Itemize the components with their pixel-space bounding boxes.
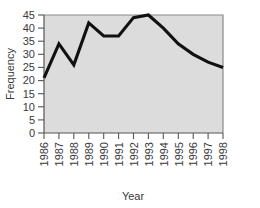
x-tick-label: 1988 <box>68 142 80 166</box>
y-tick-label: 25 <box>23 61 35 73</box>
y-tick-label: 30 <box>23 48 35 60</box>
y-tick-label: 45 <box>23 9 35 21</box>
x-tick-label: 1991 <box>113 142 125 166</box>
x-tick-label: 1987 <box>53 142 65 166</box>
x-tick-label: 1994 <box>158 142 170 166</box>
y-tick-marks <box>38 15 44 133</box>
x-tick-labels: 1986 1987 1988 1989 1990 1991 1992 1993 … <box>38 142 229 166</box>
y-tick-label: 35 <box>23 35 35 47</box>
x-tick-label: 1993 <box>143 142 155 166</box>
chart-svg: 0 5 10 15 20 25 30 35 40 45 <box>0 0 260 208</box>
x-tick-marks <box>44 133 223 139</box>
y-axis-title: Frequency <box>4 48 16 100</box>
x-tick-label: 1998 <box>217 142 229 166</box>
plot-area-background <box>44 15 223 133</box>
x-tick-label: 1986 <box>38 142 50 166</box>
x-tick-label: 1996 <box>187 142 199 166</box>
x-tick-label: 1992 <box>128 142 140 166</box>
y-tick-label: 15 <box>23 88 35 100</box>
x-tick-label: 1989 <box>83 142 95 166</box>
frequency-by-year-chart: 0 5 10 15 20 25 30 35 40 45 <box>0 0 260 208</box>
y-tick-label: 5 <box>29 114 35 126</box>
x-tick-label: 1995 <box>173 142 185 166</box>
x-tick-label: 1997 <box>202 142 214 166</box>
y-tick-labels: 0 5 10 15 20 25 30 35 40 45 <box>23 9 35 139</box>
y-tick-label: 0 <box>29 127 35 139</box>
x-tick-label: 1990 <box>98 142 110 166</box>
y-tick-label: 10 <box>23 101 35 113</box>
y-tick-label: 40 <box>23 22 35 34</box>
y-tick-label: 20 <box>23 74 35 86</box>
x-axis-title: Year <box>122 190 145 202</box>
